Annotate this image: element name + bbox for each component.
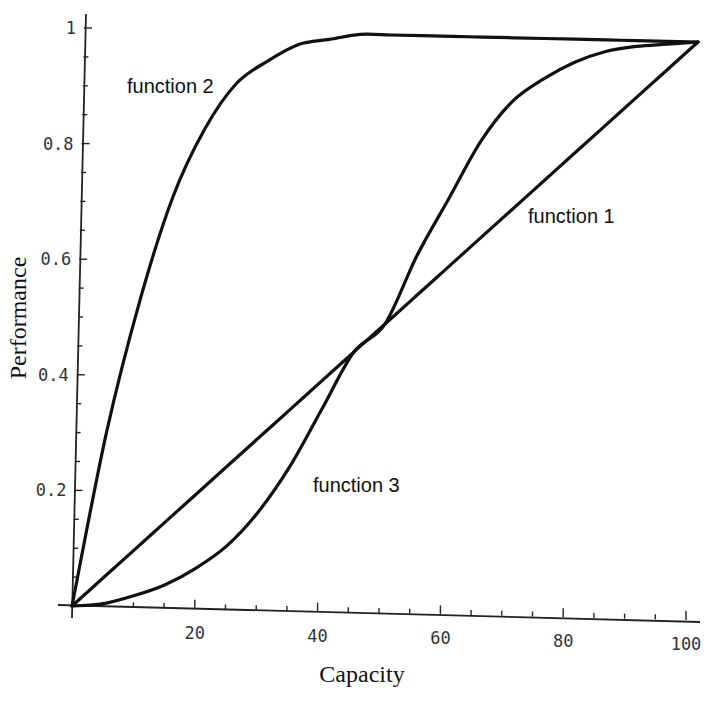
chart: 0.20.40.60.81 20406080100 function 1 fun… xyxy=(0,0,712,701)
y-tick-label: 1 xyxy=(66,18,76,38)
y-tick-label: 0.6 xyxy=(40,249,71,269)
x-tick-label: 80 xyxy=(553,631,573,651)
x-tick-labels: 20406080100 xyxy=(185,623,702,654)
y-axis xyxy=(72,14,86,618)
annotation-function-1: function 1 xyxy=(528,205,615,227)
y-tick-label: 0.8 xyxy=(43,134,74,154)
y-tick-label: 0.2 xyxy=(36,480,67,500)
x-tick-label: 60 xyxy=(430,628,450,648)
annotation-function-2: function 2 xyxy=(127,75,214,97)
plot-curves xyxy=(72,34,698,606)
y-tick-label: 0.4 xyxy=(38,365,69,385)
x-axis xyxy=(58,605,700,622)
annotation-function-3: function 3 xyxy=(313,474,400,496)
x-tick-label: 100 xyxy=(671,634,702,654)
y-tick-labels: 0.20.40.60.81 xyxy=(36,18,76,500)
y-axis-title: Performance xyxy=(5,257,31,380)
x-tick-label: 40 xyxy=(307,626,327,646)
x-ticks xyxy=(103,600,686,620)
x-axis-title: Capacity xyxy=(319,661,404,687)
x-tick-label: 20 xyxy=(185,623,205,643)
